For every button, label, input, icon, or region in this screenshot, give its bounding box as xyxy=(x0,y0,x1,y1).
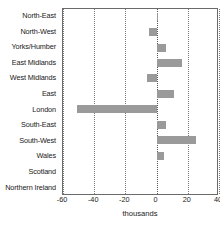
y-axis-label-east-midlands: East Midlands xyxy=(0,55,59,71)
x-tick-label-40: 40 xyxy=(214,196,220,203)
bar-row xyxy=(63,102,217,117)
y-axis-label-south-east: South-East xyxy=(0,117,59,133)
bars-layer xyxy=(63,9,217,194)
bar-chart: North-East North-West Yorks/Humber East … xyxy=(0,0,220,238)
x-tick-label--60: -60 xyxy=(57,196,68,203)
bar-south-west xyxy=(157,136,196,144)
gridline-40 xyxy=(219,9,220,194)
x-tick-label--40: -40 xyxy=(88,196,99,203)
y-axis-label-west-midlands: West Midlands xyxy=(0,70,59,86)
bar-row xyxy=(63,179,217,194)
bar-london xyxy=(77,105,157,113)
bar-row xyxy=(63,24,217,39)
x-tick-label-20: 20 xyxy=(183,196,191,203)
x-axis-tick-labels: -60-40-2002040 xyxy=(62,196,218,208)
bar-row xyxy=(63,86,217,101)
bar-row xyxy=(63,71,217,86)
y-axis-label-yorks-humber: Yorks/Humber xyxy=(0,39,59,55)
y-axis-label-london: London xyxy=(0,101,59,117)
y-axis-label-scotland: Scotland xyxy=(0,164,59,180)
x-tick-label-0: 0 xyxy=(154,196,158,203)
plot-area xyxy=(62,8,218,195)
bar-south-east xyxy=(157,121,166,129)
y-axis-label-north-west: North-West xyxy=(0,24,59,40)
bar-west-midlands xyxy=(147,74,156,82)
y-axis-label-northern-ireland: Northern Ireland xyxy=(0,179,59,195)
bar-row xyxy=(63,117,217,132)
y-axis-label-wales: Wales xyxy=(0,148,59,164)
bar-east xyxy=(157,90,174,98)
bar-row xyxy=(63,9,217,24)
bar-row xyxy=(63,132,217,147)
bar-row xyxy=(63,148,217,163)
y-axis-label-south-west: South-West xyxy=(0,133,59,149)
bar-north-west xyxy=(149,28,157,36)
y-axis-label-east: East xyxy=(0,86,59,102)
bar-wales xyxy=(157,152,165,160)
bar-east-midlands xyxy=(157,59,182,67)
bar-row xyxy=(63,163,217,178)
bar-yorks-humber xyxy=(157,44,166,52)
x-tick-label--20: -20 xyxy=(119,196,130,203)
bar-north-east xyxy=(157,13,159,21)
x-axis-title: thousands xyxy=(62,210,218,218)
bar-row xyxy=(63,55,217,70)
y-axis-category-labels: North-East North-West Yorks/Humber East … xyxy=(0,8,59,195)
y-axis-label-north-east: North-East xyxy=(0,8,59,24)
bar-row xyxy=(63,40,217,55)
